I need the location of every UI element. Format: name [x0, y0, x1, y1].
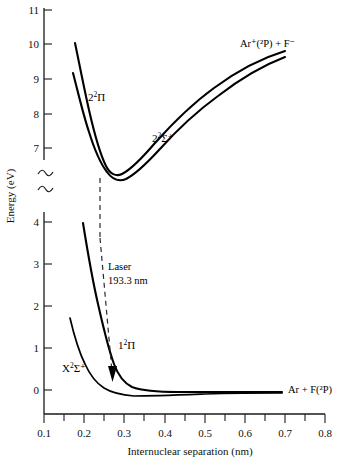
label-2-2sigma-plus: 22Σ⁺ — [152, 131, 174, 144]
laser-label-line1: Laser — [108, 261, 132, 272]
y-tick-label-1: 1 — [34, 342, 40, 354]
y-tick-label-9: 9 — [34, 73, 40, 85]
y-tick-label-4: 4 — [34, 216, 40, 228]
label-x-2sigma-plus: X2Σ⁺ — [62, 361, 86, 374]
x-tick-label-0.5: 0.5 — [198, 427, 212, 439]
y-tick-label-7: 7 — [34, 142, 40, 154]
axis-break-icon — [38, 160, 53, 212]
upper-dissociation-limit-label: Ar⁺(²P) + F⁻ — [240, 38, 295, 50]
y-tick-label-0: 0 — [34, 384, 40, 396]
x-axis-title: Internuclear separation (nm) — [127, 445, 253, 458]
y-tick-label-11: 11 — [28, 4, 39, 16]
x-tick-label-0.3: 0.3 — [117, 427, 131, 439]
laser-arrowhead-icon — [108, 366, 117, 382]
y-tick-label-8: 8 — [34, 108, 40, 120]
curve-x-2sigma-plus — [70, 318, 282, 396]
y-axis-title: Energy (eV) — [4, 168, 17, 223]
y-axis: 11 10 9 8 7 4 3 2 1 0 — [28, 4, 53, 414]
lower-dissociation-limit-label: Ar + F(²P) — [288, 384, 333, 396]
chart-canvas: 11 10 9 8 7 4 3 2 1 0 — [0, 0, 340, 471]
potential-energy-diagram: 11 10 9 8 7 4 3 2 1 0 — [0, 0, 340, 471]
x-tick-label-0.8: 0.8 — [318, 427, 332, 439]
x-axis: 0.1 0.2 0.3 0.4 0.5 0.6 0.7 0.8 — [37, 414, 332, 439]
y-tick-label-3: 3 — [34, 258, 40, 270]
label-2-2pi: 22Π — [88, 90, 105, 103]
x-tick-label-0.2: 0.2 — [77, 427, 91, 439]
x-tick-label-0.6: 0.6 — [238, 427, 252, 439]
label-1-2pi: 12Π — [118, 338, 135, 351]
curve-2-2pi — [75, 43, 285, 175]
laser-label-line2: 193.3 nm — [108, 275, 148, 286]
x-tick-label-0.1: 0.1 — [37, 427, 51, 439]
y-tick-label-10: 10 — [28, 38, 40, 50]
y-tick-label-2: 2 — [34, 300, 40, 312]
x-tick-label-0.4: 0.4 — [158, 427, 172, 439]
x-tick-label-0.7: 0.7 — [278, 427, 292, 439]
